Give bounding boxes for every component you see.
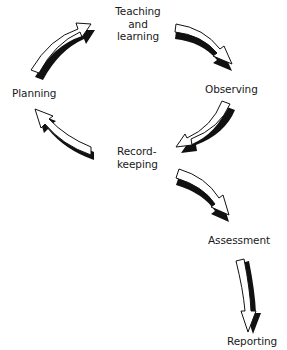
arrow-recordkeeping-to-assessment [176,169,229,222]
arrow-observing-to-recordkeeping [176,101,235,153]
arrow-assessment-to-reporting [236,259,261,334]
node-record-keeping: Record- keeping [117,145,158,170]
arrow-recordkeeping-to-planning [35,109,94,160]
arrow-planning-to-teaching [31,23,95,80]
node-planning: Planning [12,87,56,100]
node-teaching-line-3: learning [110,30,166,43]
node-teaching-and-learning: Teaching and learning [110,5,166,43]
node-recordkeeping-line-2: keeping [117,158,158,171]
arrow-teaching-to-observing [175,24,232,71]
arrows-layer [0,0,287,350]
node-recordkeeping-line-1: Record- [117,145,158,158]
node-observing: Observing [205,83,258,96]
node-assessment: Assessment [208,234,270,247]
node-reporting: Reporting [227,335,277,348]
node-teaching-line-1: Teaching [110,5,166,18]
node-teaching-line-2: and [110,18,166,31]
